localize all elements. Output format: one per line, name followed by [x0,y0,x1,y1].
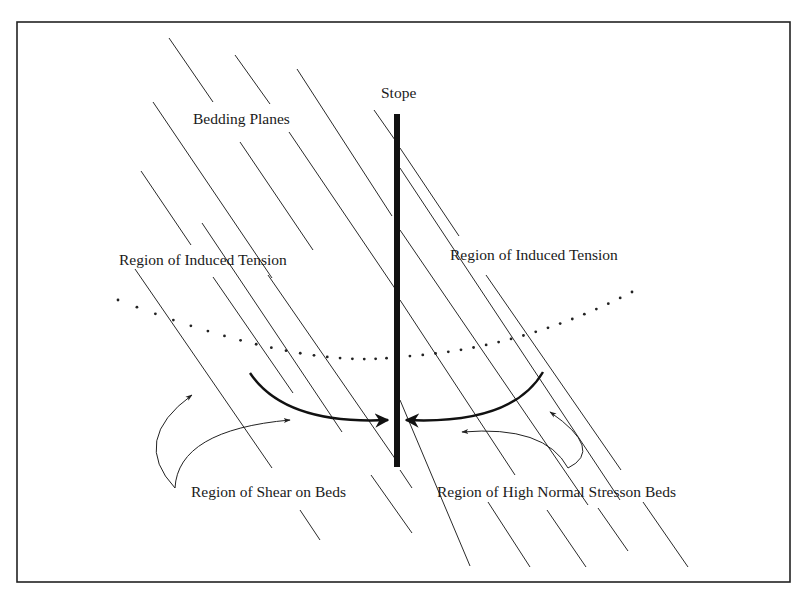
induced-tension-left-label: Region of Induced Tension [119,251,287,268]
tension-boundary-dot [172,319,175,322]
tension-boundary-dot [631,291,634,294]
bedding-plane-line [135,269,272,468]
bedding-plane-line [643,502,688,567]
high-normal-stress-label: Region of High Normal Stresson Beds [437,483,676,500]
bedding-plane-line [235,55,270,104]
bedding-plane-line [400,470,412,488]
tension-boundary-dot [285,349,288,352]
tension-boundary-dot [583,313,586,316]
bedding-plane-line [488,502,530,567]
bedding-plane-line [598,508,628,551]
bedding-plane-line [141,171,191,245]
tension-boundary-dot [472,346,475,349]
tension-boundary-dot [363,358,366,361]
bedding-plane-line [289,132,396,290]
shear-on-beds-label: Region of Shear on Beds [191,483,346,500]
shear-pointer-arrow-lower [175,420,290,488]
tension-boundary-dot [619,297,622,300]
induced-tension-boundary-dotted-curve [117,291,634,361]
tension-boundary-dot [270,346,273,349]
bedding-plane-line [400,148,459,236]
tension-boundary-dot [421,354,424,357]
tension-boundary-dot [447,350,450,353]
bedding-plane-line [371,475,412,533]
bedding-planes-label: Bedding Planes [193,110,290,127]
tension-boundary-dot [409,355,412,358]
bedding-plane-line [400,300,515,475]
tension-boundary-dot [559,322,562,325]
tension-boundary-dot [326,356,329,359]
tension-boundary-dot [510,338,513,341]
stope-bedding-diagram: Stope Bedding Planes Region of Induced T… [0,0,803,599]
bedding-plane-line [240,142,313,250]
tension-boundary-dot [299,352,302,355]
tension-boundary-dot [434,352,437,355]
tension-boundary-dot [571,318,574,321]
tension-boundary-dot [154,312,157,315]
tension-boundary-dot [339,357,342,360]
bedding-plane-line [300,510,320,540]
tension-boundary-dot [497,341,500,344]
bedding-plane-line [547,510,586,567]
stope-bar [394,114,400,467]
bedding-plane-line [400,230,588,505]
tension-boundary-dot [189,324,192,327]
tension-boundary-dot [595,308,598,311]
bedding-plane-line [400,168,620,500]
tension-boundary-dot [460,348,463,351]
bedding-plane-line [268,275,396,460]
tension-boundary-dot [351,357,354,360]
shear-pointer-arrow-upper [156,395,192,488]
tension-boundary-dot [485,344,488,347]
bedding-plane-line [486,275,621,470]
tension-boundary-dot [136,306,139,309]
tension-boundary-dot [534,330,537,333]
normal-stress-pointer-arrow-upper [550,412,583,468]
stope-label: Stope [381,84,416,101]
tension-boundary-dot [385,357,388,360]
tension-boundary-dot [522,334,525,337]
bedding-plane-line [297,69,392,216]
bedding-plane-line [169,38,213,102]
tension-boundary-dot [255,343,258,346]
tension-boundary-dot [117,299,120,302]
tension-boundary-dot [374,357,377,360]
normal-stress-pointer-arrow-lower [462,431,568,468]
left-convergence-arrow [250,373,388,420]
bedding-plane-line [374,110,395,140]
tension-boundary-dot [607,302,610,305]
tension-boundary-dot [239,339,242,342]
tension-boundary-dot [547,326,550,329]
tension-boundary-dot [313,354,316,357]
tension-boundary-dot [207,330,210,333]
tension-boundary-dot [223,335,226,338]
induced-tension-right-label: Region of Induced Tension [450,246,618,263]
